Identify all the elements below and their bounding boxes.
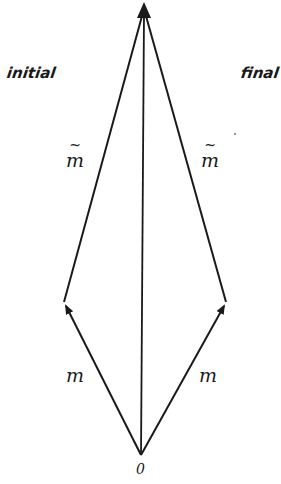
- m-tilde-left-letter: m: [66, 149, 84, 171]
- scan-speck: [234, 133, 236, 135]
- m-tilde-right-letter: m: [201, 149, 219, 171]
- total-vector-line: [141, 14, 144, 455]
- apex-arrowhead-icon: [137, 2, 151, 18]
- label-final: final: [240, 66, 280, 81]
- label-origin: 0: [136, 462, 145, 476]
- label-m-tilde-right: ~ m: [201, 141, 219, 171]
- label-m-tilde-left: ~ m: [66, 141, 84, 171]
- tilde-mark: ~: [201, 141, 219, 149]
- label-initial: initial: [6, 66, 57, 81]
- tilde-mark: ~: [66, 141, 84, 149]
- label-m-left: m: [66, 366, 84, 385]
- label-m-right: m: [199, 366, 217, 385]
